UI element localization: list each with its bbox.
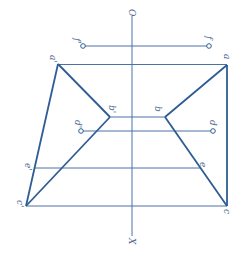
point-f [207, 44, 212, 49]
point-f-prime [81, 44, 86, 49]
label-b: b [153, 106, 163, 112]
label-d-prime: d' [73, 120, 83, 128]
edge-a-b [165, 65, 227, 117]
edge-a-prime-b-prime [58, 64, 110, 117]
label-a: a [222, 54, 232, 59]
label-c: c [222, 209, 232, 214]
label-a-prime: a' [48, 55, 58, 63]
point-d [211, 129, 216, 134]
edge-b-prime-c-prime [26, 117, 110, 206]
projection-diagram: O X f' f a' a b' b d' d e' e c' c [0, 0, 245, 266]
label-b-prime: b' [107, 105, 117, 113]
label-f-prime: f' [72, 37, 82, 44]
label-f: f [204, 35, 214, 41]
point-d-prime [79, 129, 84, 134]
label-e-prime: e' [23, 163, 33, 171]
label-e: e [198, 162, 208, 167]
edge-b-c [165, 117, 227, 206]
label-axis-x: X [127, 237, 137, 245]
edge-a-prime-c-prime [26, 64, 58, 206]
label-c-prime: c' [15, 200, 25, 208]
label-d: d [208, 120, 218, 126]
label-axis-o: O [127, 9, 137, 17]
